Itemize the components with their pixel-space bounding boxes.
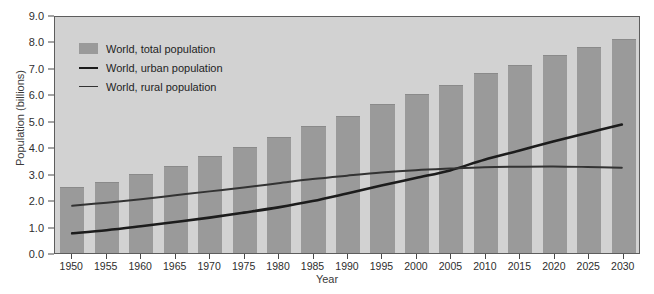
x-tick-label: 2030 bbox=[600, 260, 646, 272]
x-tick-mark bbox=[209, 254, 210, 259]
x-tick-mark bbox=[106, 254, 107, 259]
legend-line-thin-icon bbox=[79, 86, 98, 87]
legend-line-icon bbox=[79, 67, 98, 69]
x-tick-mark bbox=[416, 254, 417, 259]
legend-item-total: World, total population bbox=[79, 39, 223, 58]
x-tick-mark bbox=[175, 254, 176, 259]
x-tick-mark bbox=[554, 254, 555, 259]
x-tick-mark bbox=[313, 254, 314, 259]
rural-population-line bbox=[72, 166, 622, 205]
x-tick-mark bbox=[244, 254, 245, 259]
y-tick-label: 8.0 bbox=[4, 36, 44, 48]
y-tick-label: 6.0 bbox=[4, 89, 44, 101]
x-tick-mark bbox=[450, 254, 451, 259]
y-tick-label: 1.0 bbox=[4, 222, 44, 234]
population-chart: Population (billions) Year 0.01.02.03.04… bbox=[0, 0, 654, 294]
y-tick-label: 9.0 bbox=[4, 10, 44, 22]
x-tick-mark bbox=[140, 254, 141, 259]
urban-population-line bbox=[72, 125, 622, 234]
legend-label-total: World, total population bbox=[106, 43, 215, 55]
y-tick-label: 5.0 bbox=[4, 116, 44, 128]
plot-area: World, total population World, urban pop… bbox=[54, 16, 640, 254]
x-tick-mark bbox=[485, 254, 486, 259]
x-tick-mark bbox=[347, 254, 348, 259]
x-tick-mark bbox=[71, 254, 72, 259]
x-tick-mark bbox=[588, 254, 589, 259]
legend-item-urban: World, urban population bbox=[79, 58, 223, 77]
x-axis-title: Year bbox=[0, 273, 654, 285]
legend-label-urban: World, urban population bbox=[106, 62, 223, 74]
x-tick-mark bbox=[381, 254, 382, 259]
legend-label-rural: World, rural population bbox=[106, 81, 216, 93]
y-tick-label: 7.0 bbox=[4, 63, 44, 75]
legend: World, total population World, urban pop… bbox=[79, 39, 223, 96]
y-tick-label: 0.0 bbox=[4, 248, 44, 260]
x-tick-mark bbox=[278, 254, 279, 259]
y-tick-label: 4.0 bbox=[4, 142, 44, 154]
y-tick-label: 2.0 bbox=[4, 195, 44, 207]
y-tick-label: 3.0 bbox=[4, 169, 44, 181]
legend-item-rural: World, rural population bbox=[79, 77, 223, 96]
legend-swatch-icon bbox=[79, 43, 98, 54]
x-tick-mark bbox=[623, 254, 624, 259]
x-tick-mark bbox=[519, 254, 520, 259]
